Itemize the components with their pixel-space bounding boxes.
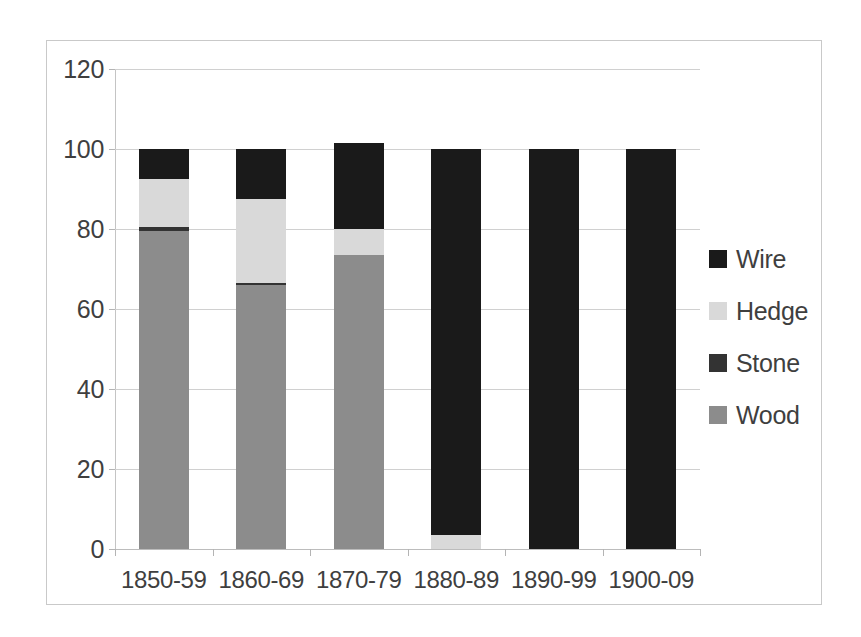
- y-tick-mark: [109, 309, 115, 310]
- x-tick-mark: [310, 549, 311, 556]
- y-tick-label: 60: [77, 295, 104, 324]
- y-tick-mark: [109, 69, 115, 70]
- gridline: [115, 69, 700, 70]
- x-tick-mark: [700, 549, 701, 556]
- y-tick-mark: [109, 229, 115, 230]
- y-tick-mark: [109, 469, 115, 470]
- bar-segment-hedge[interactable]: [236, 199, 286, 283]
- bar-stack[interactable]: [236, 69, 286, 549]
- y-tick-label: 100: [63, 135, 104, 164]
- bar-segment-wood[interactable]: [139, 231, 189, 549]
- plot-area: 020406080100120 1850-591860-691870-79188…: [115, 69, 700, 549]
- x-tick-mark: [115, 549, 116, 556]
- legend-swatch-icon: [709, 354, 727, 372]
- legend-item-hedge[interactable]: Hedge: [709, 285, 808, 337]
- legend-swatch-icon: [709, 250, 727, 268]
- x-tick-label: 1850-59: [121, 566, 206, 594]
- y-tick-label: 120: [63, 55, 104, 84]
- x-tick-mark: [213, 549, 214, 556]
- bar-segment-wire[interactable]: [431, 149, 481, 535]
- bar-segment-wood[interactable]: [236, 285, 286, 549]
- legend-swatch-icon: [709, 406, 727, 424]
- bar-segment-wire[interactable]: [529, 149, 579, 549]
- chart-frame: 020406080100120 1850-591860-691870-79188…: [46, 40, 822, 605]
- gridline: [115, 469, 700, 470]
- bar-stack[interactable]: [139, 69, 189, 549]
- bar-segment-hedge[interactable]: [139, 179, 189, 227]
- x-tick-label: 1890-99: [511, 566, 596, 594]
- y-tick-label: 80: [77, 215, 104, 244]
- x-tick-mark: [505, 549, 506, 556]
- legend-label: Stone: [736, 349, 800, 378]
- legend-swatch-icon: [709, 302, 727, 320]
- legend-label: Wire: [736, 245, 786, 274]
- y-tick-mark: [109, 389, 115, 390]
- x-tick-label: 1900-09: [609, 566, 694, 594]
- legend-item-wood[interactable]: Wood: [709, 389, 808, 441]
- bar-segment-wire[interactable]: [236, 149, 286, 199]
- bar-stack[interactable]: [626, 69, 676, 549]
- x-tick-mark: [408, 549, 409, 556]
- x-tick-label: 1870-79: [316, 566, 401, 594]
- y-tick-label: 0: [90, 535, 104, 564]
- x-tick-label: 1880-89: [414, 566, 499, 594]
- chart-legend: WireHedgeStoneWood: [709, 233, 808, 441]
- legend-item-wire[interactable]: Wire: [709, 233, 808, 285]
- y-tick-mark: [109, 149, 115, 150]
- bar-segment-wire[interactable]: [334, 143, 384, 229]
- bar-stack[interactable]: [431, 69, 481, 549]
- x-tick-mark: [603, 549, 604, 556]
- x-tick-label: 1860-69: [219, 566, 304, 594]
- bar-segment-stone[interactable]: [139, 227, 189, 231]
- gridline: [115, 229, 700, 230]
- gridline: [115, 149, 700, 150]
- y-tick-label: 40: [77, 375, 104, 404]
- bar-segment-wire[interactable]: [626, 149, 676, 549]
- bar-stack[interactable]: [334, 69, 384, 549]
- bar-segment-hedge[interactable]: [334, 229, 384, 255]
- bar-stack[interactable]: [529, 69, 579, 549]
- gridline: [115, 389, 700, 390]
- bar-segment-hedge[interactable]: [431, 535, 481, 549]
- bar-segment-wire[interactable]: [139, 149, 189, 179]
- legend-label: Wood: [736, 401, 800, 430]
- legend-item-stone[interactable]: Stone: [709, 337, 808, 389]
- bar-segment-stone[interactable]: [236, 283, 286, 285]
- legend-label: Hedge: [736, 297, 808, 326]
- y-tick-label: 20: [77, 455, 104, 484]
- gridline: [115, 309, 700, 310]
- bar-segment-wood[interactable]: [334, 255, 384, 549]
